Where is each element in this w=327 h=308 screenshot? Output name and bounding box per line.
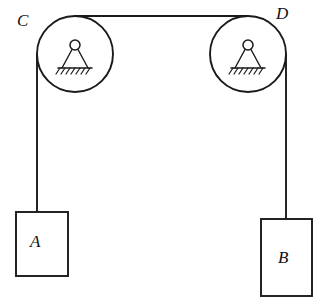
pulley-d [210, 16, 286, 92]
pulley-c-label: C [17, 12, 28, 29]
pulley-d-axle-pin-icon [243, 40, 253, 50]
pulley-c-support-leg-left [62, 50, 72, 69]
pulley-c-support-leg-right [78, 50, 88, 69]
pulley-d-label: D [276, 5, 288, 22]
pulley-c-ground-hatching-icon [56, 68, 90, 74]
pulley-diagram-figure: C D A B [0, 0, 327, 308]
pulley-d-support-leg-left [235, 50, 245, 69]
pulley-c-axle-pin-icon [70, 40, 80, 50]
pulley-c [37, 16, 113, 92]
pulley-d-ground-hatching-icon [229, 68, 263, 74]
block-a [16, 212, 68, 276]
pulley-c-rim [37, 16, 113, 92]
pulley-d-support-leg-right [251, 50, 261, 69]
block-a-label: A [30, 233, 40, 250]
pulley-d-rim [210, 16, 286, 92]
block-b-label: B [278, 249, 288, 266]
